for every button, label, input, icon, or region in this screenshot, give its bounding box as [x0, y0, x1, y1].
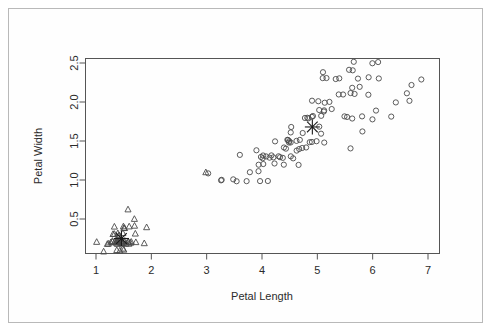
centroid-asterisk: [114, 231, 129, 246]
centroid-asterisk: [305, 119, 320, 134]
data-point-circle: [393, 100, 398, 105]
data-point-circle: [322, 140, 327, 145]
data-point-circle: [265, 178, 270, 183]
data-point-circle: [324, 75, 329, 80]
data-point-circle: [337, 76, 342, 81]
x-axis-ticks: [96, 254, 428, 260]
data-point-circle: [300, 130, 305, 135]
data-point-circle: [351, 59, 356, 64]
data-point-circle: [296, 162, 301, 167]
y-tick-label: 1.5: [68, 133, 80, 148]
x-axis-tick-labels: 1234567: [93, 264, 431, 276]
data-point-triangle: [132, 230, 138, 236]
x-tick-label: 6: [370, 264, 376, 276]
data-point-circle: [288, 130, 293, 135]
data-point-circle: [407, 98, 412, 103]
x-tick-label: 5: [314, 264, 320, 276]
data-point-circle: [256, 169, 261, 174]
y-axis-tick-labels: 0.51.01.52.02.5: [68, 55, 80, 226]
x-tick-label: 3: [204, 264, 210, 276]
data-point-triangle: [126, 223, 132, 229]
x-tick-label: 4: [259, 264, 265, 276]
y-axis-ticks: [80, 63, 86, 219]
data-point-circle: [317, 107, 322, 112]
data-point-circle: [281, 162, 286, 167]
data-point-circle: [355, 76, 360, 81]
y-tick-label: 2.0: [68, 94, 80, 109]
data-point-triangle: [125, 206, 131, 212]
data-point-circle: [366, 75, 371, 80]
data-point-triangle: [131, 216, 137, 222]
y-axis-title: Petal Width: [32, 128, 44, 184]
data-point-triangle: [141, 240, 147, 246]
y-tick-label: 0.5: [68, 211, 80, 226]
data-point-circle: [370, 61, 375, 66]
data-point-triangle: [132, 223, 138, 229]
data-point-circle: [329, 106, 334, 111]
data-point-circle: [320, 70, 325, 75]
data-point-circle: [366, 92, 371, 97]
data-point-circle: [360, 129, 365, 134]
data-point-circle: [404, 91, 409, 96]
data-point-circle: [350, 68, 355, 73]
data-point-circle: [357, 84, 362, 89]
data-point-triangle: [111, 223, 117, 229]
data-point-circle: [289, 124, 294, 129]
data-point-circle: [359, 114, 364, 119]
x-tick-label: 1: [93, 264, 99, 276]
data-point-circle: [419, 77, 424, 82]
data-point-circle: [257, 179, 262, 184]
data-point-circle: [272, 161, 277, 166]
data-point-circle: [272, 139, 277, 144]
data-point-circle: [247, 170, 252, 175]
x-axis-title: Petal Length: [231, 290, 293, 302]
data-points-circles: [206, 59, 424, 184]
data-point-circle: [376, 59, 381, 64]
figure-canvas: 1234567 0.51.01.52.02.5 Petal Length Pet…: [0, 0, 493, 333]
y-tick-label: 2.5: [68, 55, 80, 70]
data-point-circle: [389, 114, 394, 119]
data-point-circle: [237, 152, 242, 157]
data-points-triangles: [94, 169, 209, 254]
data-point-circle: [309, 98, 314, 103]
data-point-circle: [376, 76, 381, 81]
data-point-circle: [297, 137, 302, 142]
data-point-circle: [370, 117, 375, 122]
y-tick-label: 1.0: [68, 172, 80, 187]
data-point-circle: [350, 116, 355, 121]
data-point-circle: [244, 179, 249, 184]
data-point-circle: [409, 82, 414, 87]
data-point-circle: [373, 108, 378, 113]
data-point-circle: [318, 131, 323, 136]
scatter-plot: 1234567 0.51.01.52.02.5 Petal Length Pet…: [0, 0, 493, 333]
data-point-circle: [316, 99, 321, 104]
data-point-circle: [294, 138, 299, 143]
data-point-circle: [350, 85, 355, 90]
x-tick-label: 7: [425, 264, 431, 276]
data-point-circle: [254, 148, 259, 153]
x-tick-label: 2: [148, 264, 154, 276]
data-point-circle: [348, 146, 353, 151]
data-point-circle: [319, 113, 324, 118]
data-point-triangle: [94, 239, 100, 245]
data-point-triangle: [144, 224, 150, 230]
